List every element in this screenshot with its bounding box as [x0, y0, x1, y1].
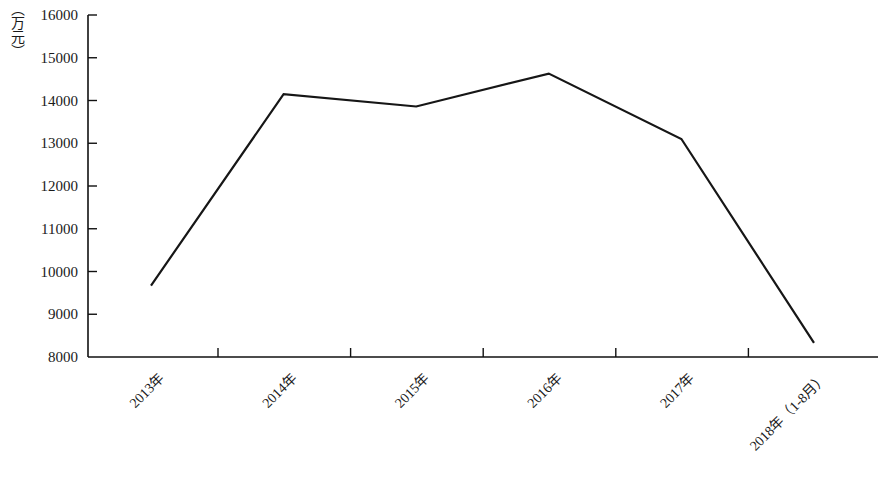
y-axis-tick-label: 8000 — [48, 349, 78, 365]
line-chart: （万元） 80009000100001100012000130001400015… — [0, 0, 882, 478]
x-axis-tick-labels: 2013年2014年2015年2016年2017年2018年（1-8月） — [127, 371, 830, 454]
y-axis-tick-labels: 8000900010000110001200013000140001500016… — [41, 7, 79, 365]
y-axis-tick-label: 10000 — [41, 264, 79, 280]
x-axis-tick-label: 2016年 — [525, 371, 565, 411]
data-series-line — [151, 74, 814, 343]
y-axis-tick-label: 16000 — [41, 7, 79, 23]
y-axis-tick-label: 9000 — [48, 306, 78, 322]
y-axis-tick-label: 12000 — [41, 178, 79, 194]
x-axis-tick-label: 2014年 — [259, 371, 299, 411]
y-axis-tick-marks — [88, 15, 97, 314]
y-axis-tick-label: 13000 — [41, 135, 79, 151]
x-axis-tick-label: 2018年（1-8月） — [747, 371, 830, 454]
chart-plot-area: 8000900010000110001200013000140001500016… — [0, 0, 882, 478]
x-axis-tick-label: 2015年 — [392, 371, 432, 411]
x-axis-tick-label: 2013年 — [127, 371, 167, 411]
y-axis-tick-label: 14000 — [41, 93, 79, 109]
y-axis-tick-label: 11000 — [41, 221, 78, 237]
y-axis-tick-label: 15000 — [41, 50, 79, 66]
x-axis-tick-label: 2017年 — [657, 371, 697, 411]
x-axis-tick-marks — [218, 348, 748, 357]
